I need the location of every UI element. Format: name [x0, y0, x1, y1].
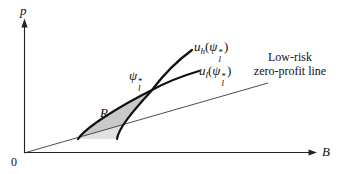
ul-arg-sub: l	[221, 80, 224, 87]
uh-curve-label: uh(ψ*l)	[194, 40, 228, 62]
uh-close-paren: )	[224, 39, 228, 54]
region-r-lower-fill	[0, 0, 342, 174]
region-r-upper-fill	[24, 0, 268, 153]
x-axis-label: B	[322, 145, 330, 158]
y-axis-arrow-icon	[21, 19, 27, 28]
x-axis-arrow-icon	[309, 149, 318, 155]
origin-label: 0	[11, 156, 17, 169]
region-r-shading	[0, 0, 342, 174]
diagram-canvas	[0, 0, 342, 174]
contract-sub: l	[138, 85, 141, 92]
zero-profit-line-caption: Low-risk zero-profit line	[244, 51, 336, 78]
contract-psi: ψ	[129, 68, 137, 83]
axis-arrowheads	[21, 19, 317, 156]
uh-arg-sub: l	[218, 56, 221, 63]
uh-indifference-curve	[117, 50, 192, 139]
ul-arg: ψ	[212, 63, 220, 78]
zero-profit-caption-line2: zero-profit line	[244, 65, 336, 79]
axes	[24, 26, 309, 153]
region-r-label: R	[100, 106, 108, 119]
zero-profit-caption-line1: Low-risk	[244, 51, 336, 65]
contract-point-label: ψ*l	[129, 69, 144, 91]
ul-curve-label: ul(ψ*l)	[199, 64, 231, 86]
screening-diagram: p B 0 uh(ψ*l) ul(ψ*l) ψ*l R Low-risk zer…	[0, 0, 342, 174]
ul-close-paren: )	[227, 63, 231, 78]
uh-arg: ψ	[209, 39, 217, 54]
y-axis-label: p	[20, 4, 27, 17]
